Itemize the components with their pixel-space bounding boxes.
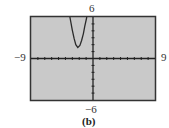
graphing-calculator-screen xyxy=(0,0,169,128)
